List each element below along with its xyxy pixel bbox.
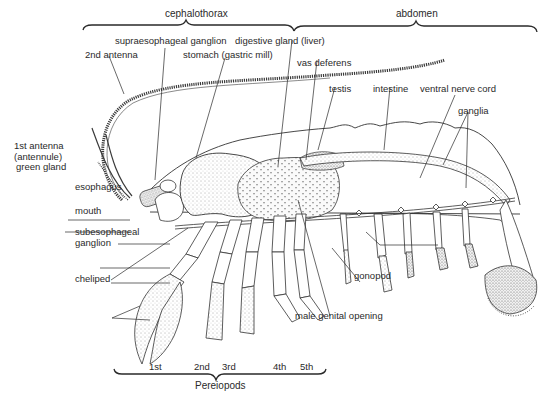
abdomen-shell (340, 213, 522, 255)
label-subesophageal-ganglion: subesophageal ganglion (75, 226, 139, 248)
label-green-gland: green gland (16, 161, 66, 172)
crayfish-anatomy-diagram: cephalothorax abdomen Pereiopods supraes… (0, 0, 551, 398)
label-subesophageal-line2: ganglion (75, 237, 139, 248)
crayfish-illustration (0, 0, 551, 398)
leg-label-1: 1st (149, 361, 162, 372)
region-label-cephalothorax: cephalothorax (165, 8, 228, 19)
label-subesophageal-line1: subesophageal (75, 226, 139, 237)
label-testis: testis (329, 83, 351, 94)
label-cheliped: cheliped (75, 273, 110, 284)
label-esophagus: esophagus (75, 181, 121, 192)
walking-legs (206, 214, 324, 340)
supraesophageal-ganglion-shape (160, 180, 176, 192)
label-male-genital-opening: male genital opening (295, 310, 383, 321)
tail-fan (485, 200, 537, 316)
label-digestive-gland: digestive gland (liver) (235, 35, 325, 46)
label-ventral-nerve-cord: ventral nerve cord (420, 83, 496, 94)
pereiopods-brace (114, 369, 326, 380)
leg-label-4: 4th (273, 361, 286, 372)
label-intestine: intestine (373, 83, 408, 94)
label-supraesophageal-ganglion: supraesophageal ganglion (115, 35, 226, 46)
region-label-pereiopods: Pereiopods (195, 380, 246, 391)
label-first-antenna: 1st antenna (antennule) (14, 140, 64, 162)
head-cavity (155, 193, 183, 222)
label-stomach: stomach (gastric mill) (183, 49, 273, 60)
cheliped-shape (135, 222, 218, 364)
abdomen-brace (294, 21, 537, 32)
region-label-abdomen: abdomen (396, 8, 438, 19)
cephalothorax-brace (83, 20, 294, 31)
label-ganglia: ganglia (458, 105, 489, 116)
label-mouth: mouth (75, 205, 101, 216)
label-gonopod: gonopod (354, 270, 391, 281)
label-second-antenna: 2nd antenna (85, 49, 138, 60)
label-first-antenna-line1: 1st antenna (14, 140, 64, 151)
leg-label-5: 5th (300, 361, 313, 372)
leg-label-2: 2nd (194, 361, 210, 372)
leg-label-3: 3rd (222, 361, 236, 372)
label-vas-deferens: vas deferens (297, 57, 351, 68)
